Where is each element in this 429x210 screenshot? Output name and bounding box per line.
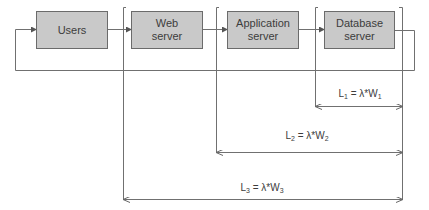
node-web-server: Web server bbox=[131, 11, 203, 49]
measure-label-L1: L1 = λ*W1 bbox=[338, 88, 381, 100]
bracket-db-right bbox=[399, 8, 403, 200]
measure-label-L3: L3 = λ*W3 bbox=[240, 182, 283, 194]
measure-label-L2: L2 = λ*W2 bbox=[285, 130, 328, 142]
equation-text: = λ*W bbox=[250, 182, 280, 193]
equation-text: = λ*W bbox=[295, 130, 325, 141]
equation-text: = λ*W bbox=[348, 88, 378, 99]
node-database-server: Database server bbox=[324, 11, 395, 49]
w-subscript: 3 bbox=[280, 187, 284, 194]
node-database-server-label: Database server bbox=[336, 17, 383, 43]
node-application-server: Application server bbox=[227, 11, 299, 49]
w-subscript: 2 bbox=[325, 135, 329, 142]
bracket-db-left bbox=[316, 8, 319, 107]
w-subscript: 1 bbox=[378, 93, 382, 100]
node-users-label: Users bbox=[58, 24, 87, 37]
node-web-server-label: Web server bbox=[152, 17, 183, 43]
node-application-server-label: Application server bbox=[236, 17, 290, 43]
bracket-web bbox=[124, 8, 127, 200]
node-users: Users bbox=[36, 11, 108, 49]
